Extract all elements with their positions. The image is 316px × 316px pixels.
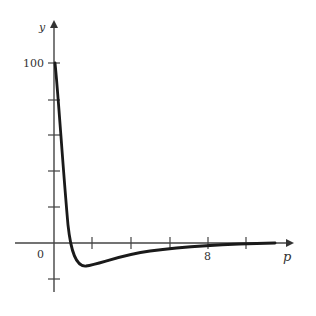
y-tick-label-100: 100 [23, 57, 44, 70]
x-axis-label: p [283, 249, 292, 264]
x-tick-label-8: 8 [204, 250, 211, 263]
origin-label: 0 [37, 248, 44, 261]
y-axis-label: y [38, 21, 46, 34]
chart: y 100 0 8 p [0, 0, 316, 316]
data-curve [55, 63, 275, 266]
